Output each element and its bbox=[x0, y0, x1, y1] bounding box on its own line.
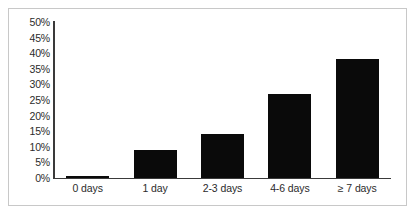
bar[interactable] bbox=[66, 176, 109, 178]
y-axis-tick-label: 50% bbox=[30, 16, 50, 28]
y-axis-tick-label: 45% bbox=[30, 32, 50, 44]
x-axis-tick-label: 0 days bbox=[54, 182, 121, 194]
x-axis-tick-label: 1 day bbox=[121, 182, 188, 194]
x-axis-tick-label: ≥ 7 days bbox=[324, 182, 391, 194]
y-axis-tick-label: 15% bbox=[30, 125, 50, 137]
y-axis-tick-labels: 0%5%10%15%20%25%30%35%40%45%50% bbox=[14, 22, 50, 178]
bar-slot bbox=[121, 22, 188, 178]
bar[interactable] bbox=[336, 59, 379, 178]
x-axis-tick-label: 2-3 days bbox=[189, 182, 256, 194]
bar-slot bbox=[54, 22, 121, 178]
chart-figure: 0%5%10%15%20%25%30%35%40%45%50% 0 days1 … bbox=[0, 0, 415, 214]
y-axis-tick-label: 5% bbox=[35, 156, 50, 168]
x-axis-tick-label: 4-6 days bbox=[256, 182, 323, 194]
y-axis-tick-label: 20% bbox=[30, 110, 50, 122]
bar[interactable] bbox=[134, 150, 177, 178]
y-axis-tick-label: 10% bbox=[30, 141, 50, 153]
y-axis-tick-label: 35% bbox=[30, 63, 50, 75]
bar[interactable] bbox=[268, 94, 311, 178]
bar[interactable] bbox=[201, 134, 244, 178]
bar-series bbox=[54, 22, 391, 178]
y-axis-tick-label: 40% bbox=[30, 47, 50, 59]
bar-slot bbox=[256, 22, 323, 178]
x-axis-tick-labels: 0 days1 day2-3 days4-6 days≥ 7 days bbox=[54, 182, 391, 194]
bar-slot bbox=[324, 22, 391, 178]
y-axis-tick-label: 0% bbox=[35, 172, 50, 184]
bar-slot bbox=[189, 22, 256, 178]
y-axis-tick-label: 30% bbox=[30, 78, 50, 90]
y-axis-tick-label: 25% bbox=[30, 94, 50, 106]
